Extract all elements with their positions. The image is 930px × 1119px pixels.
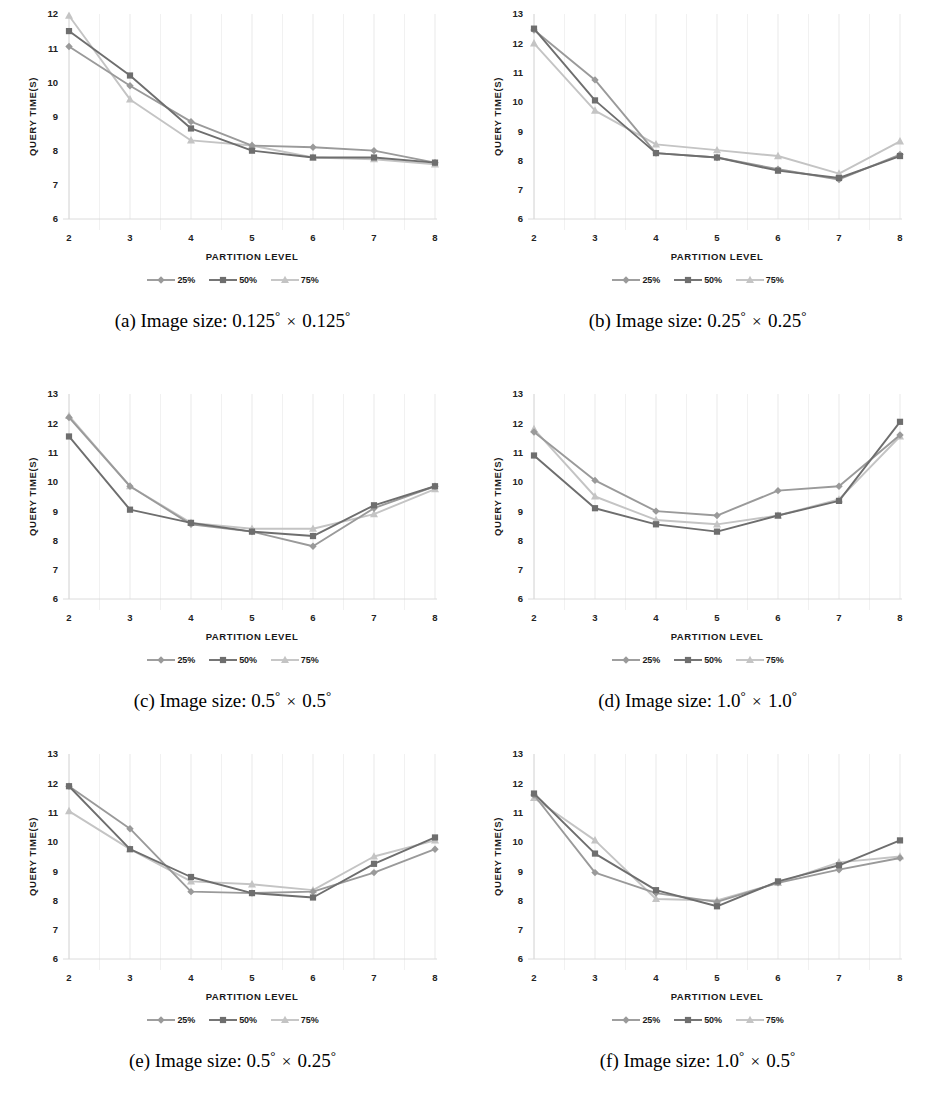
legend-entry-25pct[interactable]: 25% xyxy=(611,274,660,286)
legend-swatch-triangle-icon xyxy=(735,654,765,666)
caption-e: (e) Image size: 0.5° × 0.25° xyxy=(129,1050,336,1072)
legend-entry-50pct[interactable]: 50% xyxy=(208,654,257,666)
data-point-marker xyxy=(65,807,73,814)
y-axis-ticks: 678910111213 xyxy=(47,388,58,604)
legend-label: 50% xyxy=(704,655,722,665)
legend-entry-75pct[interactable]: 75% xyxy=(735,1014,784,1026)
y-tick-label: 11 xyxy=(47,447,58,458)
legend-label: 50% xyxy=(239,655,257,665)
legend-swatch-triangle-icon xyxy=(270,274,300,286)
x-tick-label: 6 xyxy=(775,612,780,623)
legend-swatch-diamond-icon xyxy=(146,1014,176,1026)
chart-svg-b: 6789101112132345678PARTITION LEVELQUERY … xyxy=(488,0,908,275)
x-tick-label: 5 xyxy=(249,232,255,243)
x-tick-label: 8 xyxy=(432,232,437,243)
y-tick-label: 12 xyxy=(512,418,523,429)
data-point-marker xyxy=(835,498,841,504)
legend-entry-50pct[interactable]: 50% xyxy=(673,1014,722,1026)
legend-entry-50pct[interactable]: 50% xyxy=(673,274,722,286)
data-point-marker xyxy=(713,154,719,160)
legend-label: 25% xyxy=(177,275,195,285)
x-tick-label: 8 xyxy=(432,612,437,623)
x-tick-label: 7 xyxy=(836,612,841,623)
legend-entry-25pct[interactable]: 25% xyxy=(611,654,660,666)
legend-entry-75pct[interactable]: 75% xyxy=(270,1014,319,1026)
x-tick-label: 4 xyxy=(653,972,659,983)
x-tick-label: 5 xyxy=(249,612,255,623)
x-tick-label: 2 xyxy=(66,612,71,623)
legend-entry-50pct[interactable]: 50% xyxy=(208,1014,257,1026)
data-point-marker xyxy=(370,502,376,508)
subfigure-c: 6789101112132345678PARTITION LEVELQUERY … xyxy=(0,380,465,740)
y-axis-title: QUERY TIME(S) xyxy=(492,817,503,896)
y-tick-label: 10 xyxy=(47,836,58,847)
legend-entry-75pct[interactable]: 75% xyxy=(270,274,319,286)
legend-swatch-triangle-icon xyxy=(270,1014,300,1026)
data-point-marker xyxy=(896,153,902,159)
data-point-marker xyxy=(248,890,254,896)
x-tick-label: 6 xyxy=(310,612,315,623)
legend-entry-75pct[interactable]: 75% xyxy=(735,274,784,286)
y-tick-label: 8 xyxy=(517,895,522,906)
data-point-marker xyxy=(591,97,597,103)
data-point-marker xyxy=(65,11,73,18)
chart-d: 6789101112132345678PARTITION LEVELQUERY … xyxy=(488,380,908,655)
caption-prefix: (d) Image size: xyxy=(598,690,717,711)
legend-entry-25pct[interactable]: 25% xyxy=(146,274,195,286)
x-tick-label: 6 xyxy=(310,232,315,243)
y-tick-label: 8 xyxy=(52,145,57,156)
data-point-marker xyxy=(713,903,719,909)
y-tick-label: 13 xyxy=(512,388,523,399)
legend-swatch-triangle-icon xyxy=(735,1014,765,1026)
subfigure-a: 67891011122345678PARTITION LEVELQUERY TI… xyxy=(0,0,465,380)
data-point-marker xyxy=(309,894,315,900)
x-tick-label: 2 xyxy=(66,232,71,243)
caption-b: (b) Image size: 0.25° × 0.25° xyxy=(589,310,807,332)
y-tick-label: 12 xyxy=(47,418,58,429)
multiplication-sign: × xyxy=(276,1052,298,1071)
data-point-marker xyxy=(591,836,599,843)
data-point-marker xyxy=(530,452,536,458)
y-axis-title: QUERY TIME(S) xyxy=(27,77,38,156)
y-tick-label: 9 xyxy=(517,126,522,137)
subfigure-d: 6789101112132345678PARTITION LEVELQUERY … xyxy=(465,380,930,740)
degree-symbol: ° xyxy=(331,1048,336,1063)
multiplication-sign: × xyxy=(280,692,302,711)
caption-prefix: (a) Image size: xyxy=(115,310,233,331)
y-tick-label: 9 xyxy=(52,866,57,877)
x-axis-title: PARTITION LEVEL xyxy=(670,251,763,262)
y-tick-label: 12 xyxy=(47,778,58,789)
data-point-marker xyxy=(370,861,376,867)
legend-entry-50pct[interactable]: 50% xyxy=(208,274,257,286)
data-point-marker xyxy=(431,845,438,852)
legend-entry-25pct[interactable]: 25% xyxy=(146,654,195,666)
legend-swatch-diamond-icon xyxy=(146,654,176,666)
y-tick-label: 9 xyxy=(517,506,522,517)
legend-swatch-diamond-icon xyxy=(611,274,641,286)
subfigure-f: 6789101112132345678PARTITION LEVELQUERY … xyxy=(465,740,930,1119)
degree-symbol: ° xyxy=(326,688,331,703)
data-point-marker xyxy=(65,433,71,439)
caption-prefix: (e) Image size: xyxy=(129,1050,247,1071)
y-tick-label: 8 xyxy=(52,535,57,546)
subfigure-b: 6789101112132345678PARTITION LEVELQUERY … xyxy=(465,0,930,380)
legend-entry-75pct[interactable]: 75% xyxy=(270,654,319,666)
chart-c: 6789101112132345678PARTITION LEVELQUERY … xyxy=(23,380,443,655)
data-point-marker xyxy=(774,512,780,518)
legend-label: 25% xyxy=(642,655,660,665)
caption-width-value: 1.0 xyxy=(715,1050,739,1071)
y-axis-title: QUERY TIME(S) xyxy=(492,457,503,536)
caption-f: (f) Image size: 1.0° × 0.5° xyxy=(600,1050,796,1072)
y-tick-label: 7 xyxy=(52,564,57,575)
legend-entry-25pct[interactable]: 25% xyxy=(146,1014,195,1026)
legend-entry-25pct[interactable]: 25% xyxy=(611,1014,660,1026)
legend-label: 25% xyxy=(642,275,660,285)
chart-e: 6789101112132345678PARTITION LEVELQUERY … xyxy=(23,740,443,1015)
legend-entry-75pct[interactable]: 75% xyxy=(735,654,784,666)
data-point-marker xyxy=(187,125,193,131)
caption-a: (a) Image size: 0.125° × 0.125° xyxy=(115,310,351,332)
legend-entry-50pct[interactable]: 50% xyxy=(673,654,722,666)
caption-width-value: 0.25 xyxy=(707,310,740,331)
data-point-marker xyxy=(713,529,719,535)
x-tick-label: 7 xyxy=(836,232,841,243)
